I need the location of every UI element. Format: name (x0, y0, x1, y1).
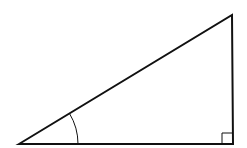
background (0, 0, 247, 148)
right-triangle-diagram (0, 0, 247, 148)
